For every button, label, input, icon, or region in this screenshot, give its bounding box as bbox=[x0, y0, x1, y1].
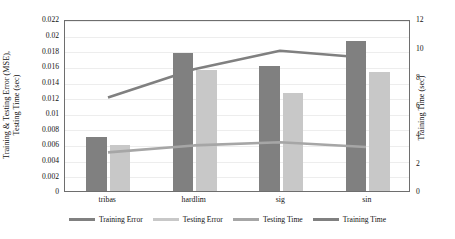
legend-item[interactable]: Testing Time bbox=[233, 215, 303, 224]
y-axis-left-title-line1: Training & Testing Error (MSE), bbox=[2, 17, 12, 193]
line-series bbox=[108, 142, 366, 152]
x-axis-category-label: tribas bbox=[64, 195, 151, 204]
line-series bbox=[108, 51, 366, 98]
y-axis-left-tick-label: 0.002 bbox=[25, 172, 59, 181]
legend-item-label: Training Error bbox=[99, 215, 143, 224]
y-axis-left-tick-label: 0.006 bbox=[25, 140, 59, 149]
y-axis-right-tick-label: 12 bbox=[416, 15, 440, 24]
y-axis-left-tick-label: 0.01 bbox=[25, 109, 59, 118]
y-axis-left-tick-label: 0.02 bbox=[25, 31, 59, 40]
x-axis-category-label: hardlim bbox=[151, 195, 238, 204]
y-axis-left-tick-label: 0.016 bbox=[25, 62, 59, 71]
y-axis-right-tick-label: 0 bbox=[416, 187, 440, 196]
y-axis-left-tick-label: 0.018 bbox=[25, 47, 59, 56]
y-axis-left-title-line2: Testing Time (sec) bbox=[12, 17, 22, 193]
x-axis-category-label: sig bbox=[237, 195, 324, 204]
legend-item[interactable]: Training Error bbox=[69, 215, 143, 224]
chart-legend: Training ErrorTesting ErrorTesting TimeT… bbox=[0, 215, 455, 224]
y-axis-left-tick-label: 0.014 bbox=[25, 78, 59, 87]
legend-item[interactable]: Training Time bbox=[313, 215, 386, 224]
legend-swatch-icon bbox=[69, 218, 95, 221]
legend-item[interactable]: Testing Error bbox=[153, 215, 223, 224]
y-axis-left-title: Training & Testing Error (MSE), Testing … bbox=[2, 17, 22, 193]
y-axis-left-tick-label: 0.012 bbox=[25, 94, 59, 103]
y-axis-left-tick-label: 0 bbox=[25, 187, 59, 196]
y-axis-left-tick-label: 0.004 bbox=[25, 156, 59, 165]
y-axis-right-tick-label: 8 bbox=[416, 73, 440, 82]
y-axis-left-tick-label: 0.008 bbox=[25, 125, 59, 134]
legend-swatch-icon bbox=[313, 218, 339, 221]
line-series-layer bbox=[65, 21, 409, 191]
plot-area bbox=[64, 20, 410, 192]
y-axis-right-tick-label: 2 bbox=[416, 159, 440, 168]
x-axis-category-label: sin bbox=[324, 195, 411, 204]
legend-item-label: Testing Error bbox=[183, 215, 223, 224]
y-axis-right-tick-label: 6 bbox=[416, 101, 440, 110]
y-axis-right-tick-label: 10 bbox=[416, 44, 440, 53]
chart-container: Training & Testing Error (MSE), Testing … bbox=[0, 0, 455, 239]
legend-swatch-icon bbox=[153, 218, 179, 221]
legend-swatch-icon bbox=[233, 218, 259, 221]
y-axis-left-tick-label: 0.022 bbox=[25, 15, 59, 24]
legend-item-label: Testing Time bbox=[263, 215, 303, 224]
legend-item-label: Training Time bbox=[343, 215, 386, 224]
y-axis-right-tick-label: 4 bbox=[416, 130, 440, 139]
